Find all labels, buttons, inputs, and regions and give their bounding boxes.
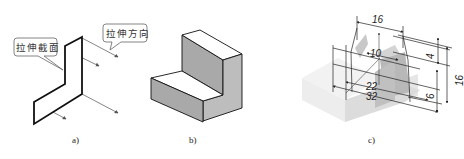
callout-label-section: 拉伸截面 — [16, 42, 60, 53]
dim-6: 6 — [425, 93, 436, 99]
arrow-3 — [82, 94, 118, 113]
dim-16-right: 16 — [454, 74, 464, 86]
figure-canvas: 拉伸截面 拉伸方向 a) b) — [0, 0, 464, 159]
dim-32: 32 — [366, 91, 378, 102]
caption-a: a) — [72, 135, 79, 145]
panel-a: 拉伸截面 拉伸方向 a) — [14, 24, 150, 145]
callout-label-direction: 拉伸方向 — [106, 28, 150, 39]
panel-c: 16 10 4 16 6 22 32 c) — [302, 14, 464, 145]
dim-4: 4 — [425, 53, 436, 59]
caption-b: b) — [189, 135, 197, 145]
dim-10: 10 — [370, 48, 382, 59]
callout-extrusion-section: 拉伸截面 — [14, 38, 63, 70]
panel-b: b) — [151, 30, 242, 145]
dim-16-top: 16 — [372, 14, 384, 25]
part-solid — [302, 34, 420, 122]
caption-c: c) — [368, 135, 375, 145]
callout-extrusion-direction: 拉伸方向 — [103, 24, 150, 50]
